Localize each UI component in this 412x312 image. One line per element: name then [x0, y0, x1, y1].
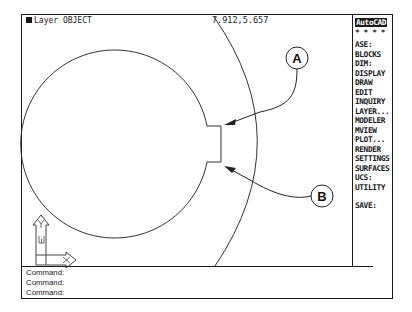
menu-item-blocks[interactable]: BLOCKS	[355, 50, 381, 59]
menu-item-modeler[interactable]: MODELER	[355, 116, 385, 125]
menu-item-edit[interactable]: EDIT	[355, 88, 372, 97]
menu-item-layer[interactable]: LAYER...	[355, 107, 389, 116]
layer-status[interactable]: Layer OBJECT	[26, 16, 92, 25]
callout-b-label: B	[317, 189, 326, 204]
menu-item-mview[interactable]: MVIEW	[355, 126, 376, 135]
callout-a-label: A	[292, 51, 302, 66]
coordinates-display: 7.912,5.657	[212, 15, 268, 25]
menu-item-ucs[interactable]: UCS:	[355, 173, 372, 182]
menu-item-dim[interactable]: DIM:	[355, 59, 372, 68]
menu-item-surfaces[interactable]: SURFACES	[355, 164, 389, 173]
command-prompt[interactable]: Command:	[26, 288, 64, 297]
menu-item-display[interactable]: DISPLAY	[355, 69, 385, 78]
layer-label: Layer OBJECT	[34, 16, 92, 25]
menu-item-inquiry[interactable]: INQUIRY	[355, 97, 385, 106]
menu-item-draw[interactable]: DRAW	[355, 78, 372, 87]
command-line-2: Command:	[26, 278, 64, 287]
command-area-divider	[21, 266, 373, 267]
menu-item-render[interactable]: RENDER	[355, 145, 381, 154]
menu-title-autocad[interactable]: AutoCAD	[355, 18, 387, 27]
menu-item-settings[interactable]: SETTINGS	[355, 154, 389, 163]
menu-item-save[interactable]: SAVE:	[355, 201, 376, 210]
menu-item-ase[interactable]: ASE:	[355, 40, 372, 49]
menu-item-plot[interactable]: PLOT...	[355, 135, 385, 144]
circle-with-notch[interactable]	[21, 50, 221, 238]
command-line-1: Command:	[26, 268, 64, 277]
screen-menu: AutoCAD * * * * ASE: BLOCKS DIM: DISPLAY…	[352, 14, 393, 266]
large-arc[interactable]	[214, 17, 257, 266]
layer-color-swatch	[26, 17, 32, 23]
ucs-icon	[33, 215, 76, 268]
menu-item-utility[interactable]: UTILITY	[355, 183, 385, 192]
menu-separator[interactable]: * * * *	[355, 28, 385, 37]
